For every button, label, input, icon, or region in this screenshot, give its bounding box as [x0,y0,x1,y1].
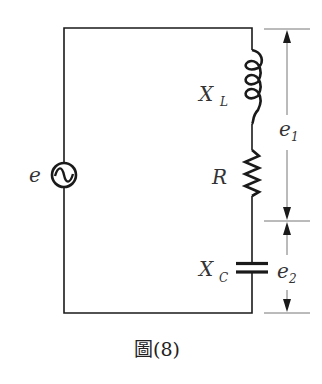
arrow-down-icon [283,207,291,220]
inductor-subscript: L [219,95,228,109]
arrow-down-icon [283,299,291,312]
arrow-up-icon [283,222,291,235]
resistor-icon [245,150,259,196]
e2-label: e [277,259,289,283]
circuit-diagram: e X L R X C e 1 e 2 圖(8) [0,0,322,384]
figure-caption: 圖(8) [134,338,180,360]
inductor-label: X [197,82,214,106]
capacitor-icon [236,264,268,273]
arrow-up-icon [283,30,291,43]
capacitor-subscript: C [219,271,228,285]
inductor-icon [246,50,262,124]
e1-subscript: 1 [291,130,299,144]
e1-label: e [279,117,291,141]
source-label: e [29,163,41,187]
ac-source-icon [52,163,76,187]
capacitor-label: X [197,257,214,281]
e2-subscript: 2 [288,272,297,286]
resistor-label: R [211,165,227,189]
bottom-wire [64,187,252,313]
